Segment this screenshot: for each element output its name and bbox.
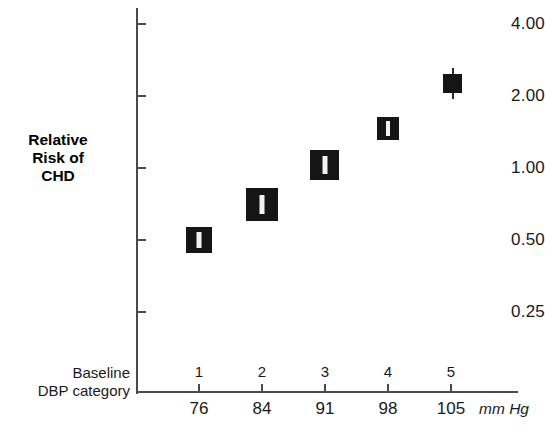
point-estimate-bar-3 xyxy=(322,156,327,174)
x-axis-units-label: mm Hg xyxy=(479,400,529,418)
data-marker-category-1 xyxy=(186,227,212,253)
point-estimate-box-5 xyxy=(443,74,462,93)
data-marker-category-3 xyxy=(310,150,339,180)
x-category-label-1: 1 xyxy=(179,363,219,380)
x-value-label-84: 84 xyxy=(235,399,289,419)
x-value-label-91: 91 xyxy=(298,399,352,419)
y-axis-title: Relative Risk of CHD xyxy=(4,131,112,185)
y-tick-label-0.25: 0.25 xyxy=(473,302,545,322)
x-axis-title-line-2: DBP category xyxy=(8,382,130,400)
x-value-label-76: 76 xyxy=(172,399,226,419)
y-axis-title-line-1: Relative xyxy=(4,131,112,149)
data-marker-category-2 xyxy=(246,188,278,221)
y-tick-label-2.00: 2.00 xyxy=(473,86,545,106)
x-value-label-105: 105 xyxy=(424,399,478,419)
x-axis-title-line-1: Baseline xyxy=(8,364,130,382)
x-category-label-3: 3 xyxy=(305,363,345,380)
y-tick-label-4.00: 4.00 xyxy=(473,14,545,34)
point-estimate-bar-4 xyxy=(386,121,390,136)
x-axis-line xyxy=(136,391,518,393)
x-tick-2 xyxy=(261,384,263,392)
y-tick-label-1.00: 1.00 xyxy=(473,158,545,178)
y-tick-1.00 xyxy=(138,167,146,169)
data-marker-category-4 xyxy=(377,117,399,140)
chd-relative-risk-chart: 4.00 2.00 1.00 0.50 0.25 Relative Risk o… xyxy=(0,0,545,432)
data-marker-category-5 xyxy=(443,68,462,99)
x-tick-5 xyxy=(450,384,452,392)
x-tick-3 xyxy=(324,384,326,392)
x-tick-4 xyxy=(387,384,389,392)
y-tick-0.50 xyxy=(138,239,146,241)
x-axis-title: Baseline DBP category xyxy=(8,364,130,399)
x-value-label-98: 98 xyxy=(361,399,415,419)
point-estimate-bar-2 xyxy=(260,195,265,214)
y-axis-title-line-2: Risk of xyxy=(4,149,112,167)
y-tick-2.00 xyxy=(138,95,146,97)
y-axis-line xyxy=(136,8,138,394)
y-tick-0.25 xyxy=(138,311,146,313)
y-tick-4.00 xyxy=(138,23,146,25)
x-tick-1 xyxy=(198,384,200,392)
x-category-label-2: 2 xyxy=(242,363,282,380)
y-axis-title-line-3: CHD xyxy=(4,167,112,185)
x-category-label-4: 4 xyxy=(368,363,408,380)
point-estimate-bar-1 xyxy=(197,232,202,248)
y-tick-label-0.50: 0.50 xyxy=(473,230,545,250)
x-category-label-5: 5 xyxy=(431,363,471,380)
